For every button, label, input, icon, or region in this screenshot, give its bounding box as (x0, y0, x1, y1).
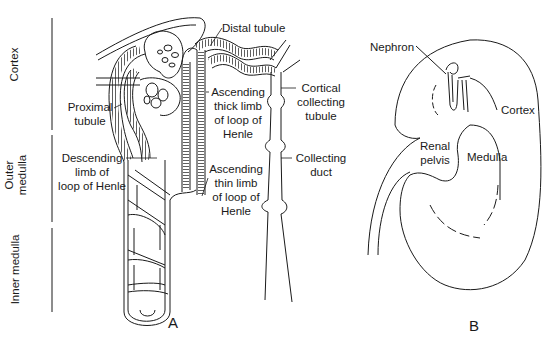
label-renal-line2: pelvis (420, 154, 449, 166)
label-asc-thin-line1: Ascending (209, 163, 263, 175)
label-nephron: Nephron (370, 40, 414, 54)
label-asc-thick-line1: Ascending (211, 86, 265, 98)
label-collecting-line1: Collecting (296, 152, 347, 164)
label-cortical-line1: Cortical (302, 82, 341, 94)
label-ascending-thick-limb: Ascending thick limb of loop of Henle (208, 85, 268, 141)
label-asc-thin-line3: of loop of (212, 191, 259, 203)
label-collecting-duct: Collecting duct (293, 151, 349, 179)
label-descending-line3: loop of Henle (58, 180, 126, 192)
label-asc-thick-line3: of loop of (214, 114, 261, 126)
label-cortical-line2: collecting (297, 96, 345, 108)
label-kidney-cortex: Cortex (501, 103, 535, 117)
label-descending-limb: Descending limb of loop of Henle (57, 151, 127, 193)
label-medulla: Medulla (467, 150, 507, 164)
label-cortical-line3: tubule (305, 110, 336, 122)
label-asc-thin-line2: thin limb (215, 177, 258, 189)
label-descending-line1: Descending (62, 152, 123, 164)
label-cortical-collecting-tubule: Cortical collecting tubule (295, 81, 347, 123)
label-ascending-thin-limb: Ascending thin limb of loop of Henle (206, 162, 266, 218)
label-asc-thin-line4: Henle (221, 205, 251, 217)
label-renal-pelvis: Renal pelvis (415, 139, 455, 167)
label-asc-thick-line4: Henle (223, 128, 253, 140)
label-collecting-line2: duct (310, 166, 332, 178)
label-renal-line1: Renal (420, 140, 450, 152)
panel-letter-b: B (469, 317, 479, 334)
label-asc-thick-line2: thick limb (214, 100, 262, 112)
label-descending-line2: limb of (75, 166, 109, 178)
panel-letter-a: A (168, 314, 178, 331)
